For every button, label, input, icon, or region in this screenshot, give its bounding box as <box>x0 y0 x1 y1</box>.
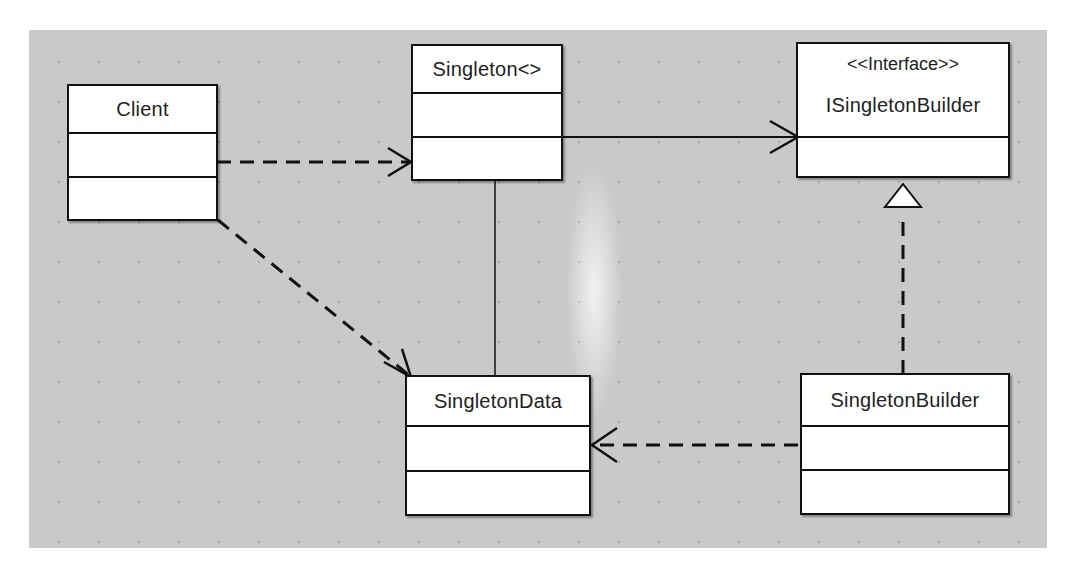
attributes-compartment <box>802 425 1008 469</box>
operations-compartment <box>69 176 216 220</box>
operations-compartment <box>413 136 561 180</box>
class-name: SingletonBuilder <box>802 375 1008 425</box>
class-client[interactable]: Client <box>67 84 218 221</box>
stereotype-label: <<Interface>> <box>798 54 1008 75</box>
operations-compartment <box>407 470 589 515</box>
class-singletondata[interactable]: SingletonData <box>405 375 591 516</box>
class-name: SingletonData <box>407 377 589 425</box>
operations-compartment <box>798 136 1008 176</box>
class-name: Client <box>69 86 216 132</box>
operations-compartment <box>802 469 1008 513</box>
attributes-compartment <box>413 92 561 136</box>
attributes-compartment <box>407 425 589 470</box>
class-singletonbuilder[interactable]: SingletonBuilder <box>800 373 1010 515</box>
class-name: Singleton<> <box>413 46 561 92</box>
class-singleton[interactable]: Singleton<> <box>411 44 563 181</box>
interface-isingletonbuilder[interactable]: <<Interface>> ISingletonBuilder <box>796 42 1010 178</box>
class-name: ISingletonBuilder <box>798 75 1008 136</box>
attributes-compartment <box>69 132 216 176</box>
